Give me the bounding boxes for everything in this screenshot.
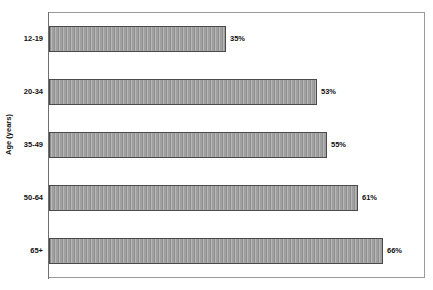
- category-label: 50-64: [0, 185, 43, 211]
- bar-value-label: 53%: [317, 79, 336, 105]
- bar: [49, 79, 317, 105]
- bar-row: 12-1935%: [0, 26, 433, 52]
- category-label: 65+: [0, 238, 43, 264]
- bar: [49, 238, 383, 264]
- bar: [49, 132, 327, 158]
- bar-chart: Age (years) 12-1935%20-3453%35-4955%50-6…: [0, 0, 433, 290]
- bar-row: 50-6461%: [0, 185, 433, 211]
- bar: [49, 26, 226, 52]
- bar-value-label: 66%: [383, 238, 402, 264]
- bar-row: 20-3453%: [0, 79, 433, 105]
- bar-row: 65+66%: [0, 238, 433, 264]
- bar-row: 35-4955%: [0, 132, 433, 158]
- category-label: 35-49: [0, 132, 43, 158]
- category-label: 12-19: [0, 26, 43, 52]
- bar-value-label: 61%: [358, 185, 377, 211]
- bar-value-label: 55%: [327, 132, 346, 158]
- category-label: 20-34: [0, 79, 43, 105]
- bar-value-label: 35%: [226, 26, 245, 52]
- bar: [49, 185, 358, 211]
